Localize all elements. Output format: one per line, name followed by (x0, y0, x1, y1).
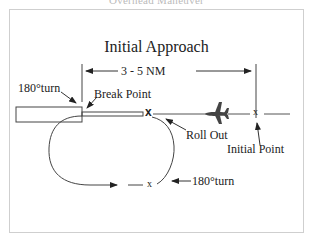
distance-label: 3 - 5 NM (121, 65, 165, 77)
label-initial-point: Initial Point (227, 143, 284, 155)
airplane-icon (205, 102, 229, 124)
diagram-title: Initial Approach (0, 39, 313, 55)
initial-point-marker: x (253, 107, 258, 117)
label-180-turn-bottom: 180°turn (192, 175, 234, 187)
runway-strip (82, 112, 143, 116)
turn-path-break (49, 116, 117, 185)
runway-box (16, 107, 82, 122)
approach-diagram (0, 0, 313, 243)
label-roll-out: Roll Out (186, 129, 228, 141)
break-marker: x (145, 106, 152, 118)
bottom-turn-marker: x (147, 179, 152, 189)
label-break-point: Break Point (94, 88, 151, 100)
turn-path-rollout (152, 117, 174, 184)
label-180-turn-top: 180°turn (18, 82, 60, 94)
